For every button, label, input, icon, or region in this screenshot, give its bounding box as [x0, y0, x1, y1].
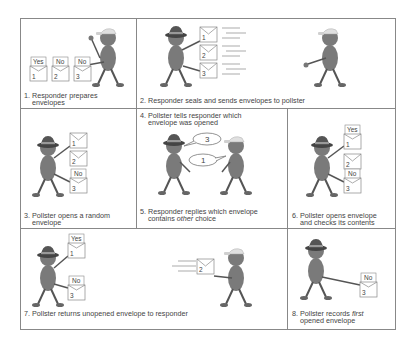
envelope-content: Yes [71, 235, 82, 242]
envelope-number: 2 [72, 158, 76, 165]
caption-line: 2. Responder seals and sends envelopes t… [140, 97, 305, 104]
envelope-number: 1 [70, 250, 74, 257]
pollster-figure [306, 136, 338, 197]
caption-step-4: 4. Pollster tells responder which envelo… [140, 112, 241, 127]
responder-figure [92, 29, 124, 87]
speech-text-responder: 1 [201, 156, 205, 165]
caption-line: envelope [24, 219, 110, 226]
envelope-number: 1 [346, 141, 350, 148]
envelope-content: Yes [347, 126, 358, 133]
caption-step-5: 5. Responder replies which envelope cont… [140, 208, 258, 223]
responder-figure [314, 29, 346, 87]
caption-line: contains other choice [140, 215, 258, 222]
caption-step-7: 7. Pollster returns unopened envelope to… [24, 310, 188, 317]
caption-step-6: 6. Pollster opens envelope and checks it… [292, 212, 377, 227]
panel-7-art [32, 234, 252, 307]
envelope-number: 3 [70, 292, 74, 299]
speech-text-pollster: 3 [205, 135, 209, 144]
caption-line: and checks its contents [292, 219, 377, 226]
envelope-content: No [364, 274, 372, 281]
envelope-number: 2 [199, 266, 203, 273]
envelope-content: No [348, 170, 356, 177]
caption-step-1: 1. Responder prepares envelopes [24, 92, 98, 107]
envelope-number: 3 [362, 289, 366, 296]
panel-3-art [32, 133, 87, 197]
caption-line: envelope was opened [140, 119, 241, 126]
caption-line: 7. Pollster returns unopened envelope to… [24, 310, 188, 317]
caption-text: contains [148, 214, 177, 223]
caption-step-3: 3. Pollster opens a random envelope [24, 212, 110, 227]
caption-step-2: 2. Responder seals and sends envelopes t… [140, 97, 305, 104]
responder-figure [220, 137, 252, 195]
caption-emphasis: other [177, 214, 193, 223]
panel-6-art [306, 125, 361, 197]
envelope-number: 3 [202, 70, 206, 77]
envelope-content: No [74, 170, 82, 177]
pollster-figure [32, 246, 64, 307]
caption-step-8: 8. Pollster records first opened envelop… [292, 310, 364, 325]
envelope-number: 3 [346, 185, 350, 192]
envelope-number: 1 [72, 140, 76, 147]
caption-text: choice [193, 214, 216, 223]
pollster-figure [300, 239, 332, 300]
caption-line: envelopes [24, 99, 98, 106]
envelope-content: No [78, 58, 86, 65]
envelope-number: 3 [76, 73, 80, 80]
envelope-number: 3 [72, 185, 76, 192]
caption-line: opened envelope [292, 317, 364, 324]
pollster-figure [160, 26, 192, 87]
envelope-number: 1 [32, 73, 36, 80]
pollster-figure [32, 136, 64, 197]
envelope-content: Yes [33, 58, 44, 65]
pollster-figure [158, 134, 190, 195]
envelope-content: No [72, 277, 80, 284]
envelope-number: 2 [346, 161, 350, 168]
envelope-number: 1 [202, 34, 206, 41]
envelope-number: 2 [54, 73, 58, 80]
envelope-number: 2 [202, 52, 206, 59]
panel-2-art [160, 26, 346, 87]
envelope-content: No [56, 58, 64, 65]
